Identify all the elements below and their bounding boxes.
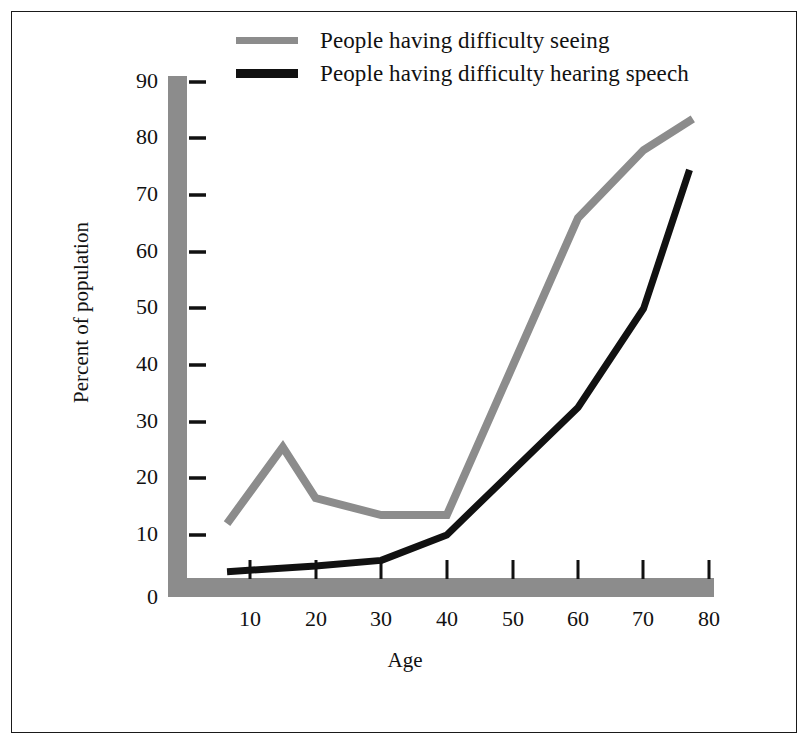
y-axis-spine — [168, 76, 187, 597]
x-axis-title: Age — [0, 648, 810, 673]
x-axis-spine — [168, 578, 714, 597]
x-tick-label-50: 50 — [488, 608, 538, 630]
y-axis-title: Percent of population — [69, 198, 94, 428]
legend-label-seeing: People having difficulty seeing — [320, 29, 609, 52]
y-axis-ticks — [189, 82, 206, 535]
x-tick-label-60: 60 — [553, 608, 603, 630]
legend-item-hearing: People having difficulty hearing speech — [236, 57, 756, 90]
y-tick-label-20: 20 — [112, 466, 158, 488]
x-tick-label-10: 10 — [225, 608, 275, 630]
x-tick-label-80: 80 — [684, 608, 734, 630]
x-tick-label-20: 20 — [291, 608, 341, 630]
y-tick-label-70: 70 — [112, 183, 158, 205]
y-tick-label-50: 50 — [112, 296, 158, 318]
legend-item-seeing: People having difficulty seeing — [236, 24, 756, 57]
chart-legend: People having difficulty seeing People h… — [236, 24, 756, 90]
x-tick-label-30: 30 — [356, 608, 406, 630]
y-tick-label-40: 40 — [112, 353, 158, 375]
y-tick-label-10: 10 — [112, 523, 158, 545]
y-tick-label-0: 0 — [112, 586, 158, 608]
y-tick-label-60: 60 — [112, 240, 158, 262]
series-line-hearing — [227, 170, 689, 572]
x-tick-label-40: 40 — [422, 608, 472, 630]
x-tick-label-70: 70 — [618, 608, 668, 630]
series-line-seeing — [227, 119, 693, 524]
y-tick-label-30: 30 — [112, 410, 158, 432]
figure-container: People having difficulty seeing People h… — [0, 0, 810, 746]
y-tick-label-90: 90 — [112, 70, 158, 92]
legend-swatch-seeing — [236, 37, 298, 44]
legend-swatch-hearing — [236, 69, 298, 78]
legend-label-hearing: People having difficulty hearing speech — [320, 62, 689, 85]
y-tick-label-80: 80 — [112, 126, 158, 148]
